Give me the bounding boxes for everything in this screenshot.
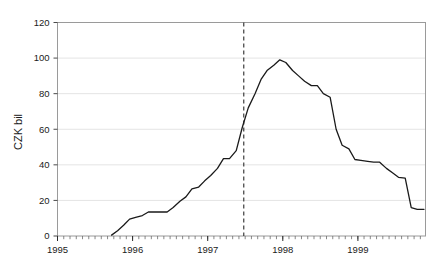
- y-tick-label: 0: [44, 230, 49, 241]
- x-tick-label: 1996: [122, 244, 143, 255]
- y-tick-label: 60: [39, 124, 50, 135]
- y-axis-title: CZK bil: [12, 114, 24, 150]
- y-tick-label: 40: [39, 159, 50, 170]
- y-axis-title-group: CZK bil: [12, 114, 24, 150]
- x-tick-label: 1995: [47, 244, 68, 255]
- y-tick-label: 120: [34, 17, 50, 28]
- chart-container: 020406080100120 19951996199719981999 CZK…: [0, 0, 445, 271]
- y-tick-label: 80: [39, 88, 50, 99]
- line-chart: 020406080100120 19951996199719981999 CZK…: [0, 0, 445, 271]
- plot-background: [0, 0, 445, 271]
- x-tick-label: 1999: [347, 244, 368, 255]
- x-tick-label: 1997: [197, 244, 218, 255]
- y-tick-label: 20: [39, 195, 50, 206]
- x-tick-label: 1998: [272, 244, 293, 255]
- y-tick-label: 100: [34, 52, 50, 63]
